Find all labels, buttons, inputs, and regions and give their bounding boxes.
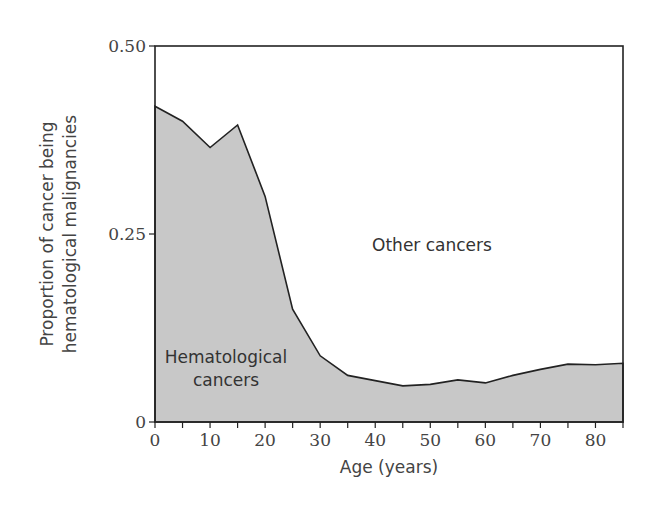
x-axis: 01020304050607080 — [150, 422, 623, 450]
y-axis-title-line2: hematological malignancies — [60, 115, 80, 354]
area-chart: 01020304050607080 00.250.50 Other cancer… — [0, 0, 651, 509]
y-tick-label: 0.25 — [108, 224, 146, 244]
x-axis-title: Age (years) — [340, 457, 438, 477]
x-tick-label: 40 — [364, 430, 386, 450]
y-tick-label: 0.50 — [108, 36, 146, 56]
y-axis: 00.250.50 — [108, 36, 155, 432]
other-cancers-label: Other cancers — [372, 235, 492, 255]
x-tick-label: 60 — [475, 430, 497, 450]
x-tick-label: 80 — [585, 430, 607, 450]
x-tick-label: 0 — [150, 430, 161, 450]
x-tick-label: 30 — [309, 430, 331, 450]
y-axis-title-line1: Proportion of cancer being — [37, 121, 57, 346]
x-tick-label: 50 — [419, 430, 441, 450]
x-tick-label: 10 — [199, 430, 221, 450]
x-tick-label: 20 — [254, 430, 276, 450]
hematological-label-line2: cancers — [193, 370, 259, 390]
y-tick-label: 0 — [135, 412, 146, 432]
hematological-label-line1: Hematological — [165, 347, 287, 367]
x-tick-label: 70 — [530, 430, 552, 450]
